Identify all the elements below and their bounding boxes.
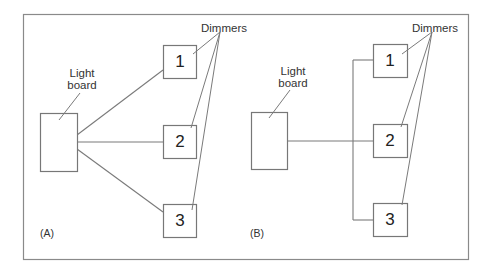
dimmers-pointer-a-1 xyxy=(193,32,220,54)
light-board-b xyxy=(252,113,288,170)
light-board-label-a: Light board xyxy=(66,67,98,91)
dimmer-b-2-number: 2 xyxy=(373,124,407,157)
dimmers-label-a: Dimmers xyxy=(200,22,248,34)
light-board-label-b: Light board xyxy=(277,65,309,89)
dimmer-a-2-number: 2 xyxy=(163,125,197,158)
dimmer-b-3-number: 3 xyxy=(373,203,407,236)
light-board-a xyxy=(41,114,78,172)
dimmers-label-b: Dimmers xyxy=(411,22,459,34)
wire-a-to-dimmer-3 xyxy=(77,149,163,212)
light-board-label-a-line1: Light xyxy=(66,67,98,79)
diagram-canvas xyxy=(0,0,494,272)
dimmer-a-1-number: 1 xyxy=(163,45,197,78)
dimmer-b-1-number: 1 xyxy=(373,44,407,77)
dimmer-a-3-number: 3 xyxy=(163,204,197,237)
panel-b-tag: (B) xyxy=(250,227,264,239)
light-board-label-a-line2: board xyxy=(66,79,98,91)
panel-a-tag: (A) xyxy=(40,227,54,239)
light-board-label-b-line1: Light xyxy=(277,65,309,77)
light-board-label-b-line2: board xyxy=(277,77,309,89)
